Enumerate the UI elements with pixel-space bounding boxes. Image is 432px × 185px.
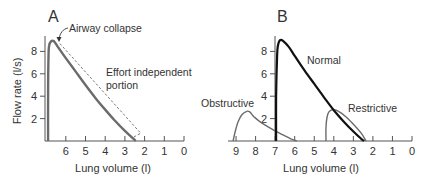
normal-label: Normal — [307, 54, 341, 66]
panel-a-title: A — [48, 8, 59, 25]
y-tick-label: 6 — [261, 68, 267, 80]
x-tick-label: 1 — [161, 145, 167, 157]
effort-independent-label-line1: Effort independent — [106, 66, 192, 78]
x-tick-label: 4 — [331, 145, 337, 157]
panel-a-y-ticks: 2468 — [31, 45, 45, 124]
x-tick-label: 2 — [370, 145, 376, 157]
y-tick-label: 2 — [31, 113, 37, 125]
x-tick-label: 6 — [63, 145, 69, 157]
y-tick-label: 6 — [31, 68, 37, 80]
restrictive-label: Restrictive — [348, 102, 397, 114]
y-tick-label: 8 — [31, 45, 37, 57]
panel-a-y-axis-label: Flow rate (l/s) — [11, 58, 23, 125]
panel-a-x-axis-label: Lung volume (l) — [75, 162, 151, 174]
x-tick-label: 8 — [253, 145, 259, 157]
panel-a-x-ticks: 6543210 — [63, 136, 187, 157]
y-tick-label: 8 — [261, 45, 267, 57]
panel-b-x-axis-label: Lung volume (l) — [283, 162, 359, 174]
flow-volume-figure: A Flow rate (l/s) Lung volume (l) 654321… — [0, 0, 432, 185]
y-tick-label: 4 — [261, 90, 267, 102]
x-tick-label: 5 — [82, 145, 88, 157]
obstructive-label: Obstructive — [201, 97, 254, 109]
arrowhead-icon — [57, 37, 62, 42]
panel-b-x-ticks: 9876543210 — [233, 136, 415, 157]
x-tick-label: 1 — [389, 145, 395, 157]
x-tick-label: 3 — [350, 145, 356, 157]
panel-b: B Lung volume (l) 9876543210 2468 Normal… — [201, 8, 415, 174]
x-tick-label: 2 — [142, 145, 148, 157]
x-tick-label: 3 — [122, 145, 128, 157]
panel-b-title: B — [277, 8, 288, 25]
x-tick-label: 0 — [181, 145, 187, 157]
panel-a: A Flow rate (l/s) Lung volume (l) 654321… — [11, 8, 192, 174]
x-tick-label: 6 — [292, 145, 298, 157]
x-tick-label: 9 — [233, 145, 239, 157]
effort-independent-label-line2: portion — [106, 79, 138, 91]
x-tick-label: 0 — [409, 145, 415, 157]
x-tick-label: 5 — [311, 145, 317, 157]
y-tick-label: 4 — [31, 90, 37, 102]
x-tick-label: 7 — [272, 145, 278, 157]
x-tick-label: 4 — [102, 145, 108, 157]
panel-b-y-ticks: 2468 — [261, 45, 275, 124]
airway-collapse-label: Airway collapse — [69, 22, 142, 34]
